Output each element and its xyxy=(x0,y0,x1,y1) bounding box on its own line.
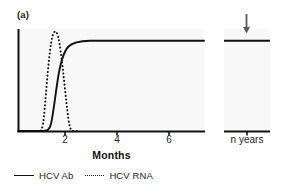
right-panel-axis-label: n years xyxy=(224,134,270,145)
x-tick-label-4: 4 xyxy=(107,134,127,145)
figure-panel-a: (a) xyxy=(0,0,298,188)
legend-item-hcv-rna: HCV RNA xyxy=(84,170,152,181)
legend-item-hcv-ab: HCV Ab xyxy=(14,170,73,181)
legend-solid-line-icon xyxy=(14,170,34,180)
x-axis-title: Months xyxy=(18,149,205,161)
x-tick-label-2: 2 xyxy=(55,134,75,145)
legend: HCV Ab HCV RNA xyxy=(14,168,153,182)
legend-label-hcv-ab: HCV Ab xyxy=(39,170,73,181)
legend-label-hcv-rna: HCV RNA xyxy=(109,170,152,181)
x-tick-label-6: 6 xyxy=(159,134,179,145)
legend-dotted-line-icon xyxy=(84,170,104,180)
right-plot-background xyxy=(224,29,270,131)
